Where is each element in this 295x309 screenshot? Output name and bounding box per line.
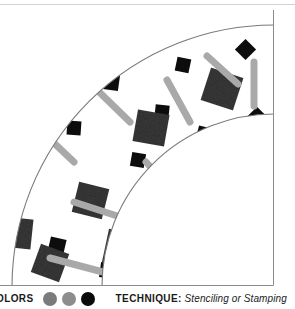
swatch-gray bbox=[43, 292, 57, 306]
colors-label: OLORS bbox=[0, 293, 34, 304]
tile-large-square bbox=[132, 109, 169, 146]
swatch-black bbox=[81, 292, 95, 306]
page-root: OLORS TECHNIQUE: Stenciling or Stamping bbox=[0, 0, 295, 309]
color-swatch-group bbox=[43, 292, 95, 306]
swatch-light-gray bbox=[62, 292, 76, 306]
legend-bar: OLORS TECHNIQUE: Stenciling or Stamping bbox=[0, 288, 295, 309]
technique-value: Stenciling or Stamping bbox=[185, 293, 287, 304]
top-divider bbox=[0, 4, 295, 5]
technique-label: TECHNIQUE: bbox=[116, 293, 182, 304]
technique-group: TECHNIQUE: Stenciling or Stamping bbox=[116, 293, 287, 304]
tile-small-diamond bbox=[175, 57, 192, 74]
illustration-svg bbox=[0, 10, 274, 286]
illustration-panel bbox=[0, 10, 274, 286]
